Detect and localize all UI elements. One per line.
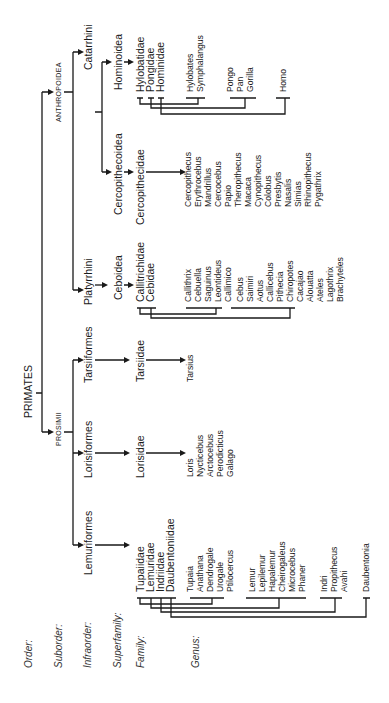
taxonomy-tree: Order: Suborder: Infraorder: Superfamily… bbox=[0, 0, 389, 703]
order-connector bbox=[36, 92, 42, 432]
genus-item: Hylobates bbox=[185, 54, 195, 92]
genus-item: Microcebus bbox=[287, 548, 297, 592]
genus-item: Dendrogale bbox=[205, 547, 215, 592]
arrow-icon bbox=[124, 542, 130, 548]
superfamily-hominoidea: Hominoidea bbox=[112, 34, 124, 90]
genus-item: Papio bbox=[223, 185, 233, 207]
genus-item: Pan bbox=[235, 76, 245, 92]
genus-item: Alouatta bbox=[305, 270, 315, 302]
family-tarsiidae: Tarsiidae bbox=[134, 340, 146, 382]
genus-item: Callicebus bbox=[265, 262, 275, 302]
genus-callitrichidae: Callithrix Cebuella Saguinus Leontideus … bbox=[183, 260, 233, 302]
level-superfamily: Superfamily: bbox=[112, 612, 123, 668]
suborder-anthropoidea: ANTHROPOIDEA bbox=[55, 62, 62, 122]
genus-daubentoniidae: Daubentonia bbox=[361, 543, 371, 592]
suborder-prosimii: PROSIMII bbox=[55, 412, 62, 446]
genus-lorisidae: Loris Nycticebus Arctocebus Perodicticus… bbox=[185, 430, 235, 477]
genus-item: Lemur bbox=[247, 568, 257, 592]
family-lorisidae: Lorisidae bbox=[134, 435, 146, 478]
level-family: Family: bbox=[135, 636, 146, 668]
hominoid-genus-connectors bbox=[140, 98, 285, 114]
infraorder-lemuriformes: Lemuriformes bbox=[82, 511, 94, 575]
genus-tarsiidae: Tarsius bbox=[185, 355, 195, 382]
genus-item: Phaner bbox=[297, 564, 307, 592]
genus-item: Chiropotes bbox=[285, 260, 295, 302]
order-primates: PRIMATES bbox=[22, 365, 34, 418]
genus-indriidae: Indri Propithecus Avahi bbox=[319, 547, 349, 592]
suborder-branches bbox=[42, 92, 50, 432]
level-genus: Genus: bbox=[190, 636, 201, 668]
genus-item: Simias bbox=[293, 181, 303, 207]
genus-item: Cynopithecus bbox=[253, 155, 263, 207]
genus-item: Callithrix bbox=[183, 268, 193, 302]
family-cercopithecidae: Cercopithecidae bbox=[134, 149, 146, 225]
infraorder-catarrhini: Catarrhini bbox=[82, 24, 94, 70]
genus-hylobatidae: Hylobates Symphalangus bbox=[185, 35, 205, 92]
genus-item: Symphalangus bbox=[195, 35, 205, 92]
genus-item: Indri bbox=[319, 575, 329, 592]
genus-pongidae: Pongo Pan Gorilla bbox=[225, 67, 255, 92]
genus-tupaiidae: Tupaia Anathana Dendrogale Urogale Ptilo… bbox=[185, 547, 235, 592]
genus-item: Tupaia bbox=[185, 566, 195, 592]
genus-item: Loris bbox=[185, 458, 195, 477]
genus-item: Pongo bbox=[225, 67, 235, 92]
genus-item: Galago bbox=[225, 449, 235, 477]
infraorder-tarsiiformes: Tarsiiformes bbox=[82, 326, 94, 383]
genus-item: Ptilocercus bbox=[225, 550, 235, 592]
prosimii-connector bbox=[64, 360, 80, 545]
arrow-icon bbox=[48, 89, 54, 95]
genus-item: Arctocebus bbox=[205, 434, 215, 477]
genus-item: Perodicticus bbox=[215, 430, 225, 477]
genus-item: Leontideus bbox=[213, 260, 223, 302]
genus-item: Rhinopithecus bbox=[303, 153, 313, 207]
arrow-icon bbox=[180, 450, 186, 456]
arrow-icon bbox=[48, 429, 54, 435]
genus-item: Nycticebus bbox=[195, 435, 205, 477]
genus-item: Lagothrix bbox=[325, 266, 335, 302]
genus-item: Cercocebus bbox=[213, 161, 223, 207]
genus-item: Propithecus bbox=[329, 547, 339, 592]
genus-item: Lepilemur bbox=[257, 554, 267, 592]
genus-item: Macaca bbox=[243, 177, 253, 207]
level-infraorder: Infraorder: bbox=[82, 622, 93, 668]
genus-item: Erythrocebus bbox=[193, 156, 203, 207]
superfamily-ceboidea: Ceboidea bbox=[112, 255, 124, 300]
family-daubentoniidae: Daubentoniidae bbox=[164, 518, 176, 592]
genus-item: Avahi bbox=[339, 571, 349, 592]
genus-item: Daubentonia bbox=[361, 543, 371, 592]
family-cebidae: Cebidae bbox=[144, 263, 156, 302]
level-order: Order: bbox=[23, 639, 34, 668]
genus-item: Theropithecus bbox=[233, 153, 243, 207]
genus-lemuridae: Lemur Lepilemur Hapalemur Cheirogaleus M… bbox=[247, 541, 307, 592]
genus-item: Colobus bbox=[263, 175, 273, 207]
genus-cebidae: Cebus Saimiri Aotus Callicebus Pithecia … bbox=[235, 257, 345, 302]
family-hominidae: Hominidae bbox=[154, 42, 166, 92]
genus-item: Nasalis bbox=[283, 179, 293, 207]
level-suborder: Suborder: bbox=[53, 624, 64, 668]
infraorder-lorisiformes: Lorisiformes bbox=[82, 421, 94, 478]
genus-item: Gorilla bbox=[245, 67, 255, 92]
genus-item: Cebus bbox=[235, 277, 245, 302]
ceboid-genus-connectors bbox=[137, 308, 295, 318]
infraorder-platyrrhini: Platyrrhini bbox=[82, 258, 94, 305]
genus-item: Hapalemur bbox=[267, 550, 277, 592]
genus-item: Tarsius bbox=[185, 355, 195, 382]
genus-item: Callimico bbox=[223, 267, 233, 302]
genus-cercopithecidae: Cercopithecus Erythrocebus Mandrillus Ce… bbox=[183, 152, 323, 207]
genus-item: Cercopithecus bbox=[183, 152, 193, 207]
arrow-icon bbox=[102, 282, 108, 288]
genus-item: Cheirogaleus bbox=[277, 541, 287, 592]
anthropoidea-connector bbox=[64, 52, 80, 290]
genus-item: Pithecia bbox=[275, 271, 285, 302]
genus-item: Saimiri bbox=[245, 276, 255, 302]
primate-taxonomy-diagram: Order: Suborder: Infraorder: Superfamily… bbox=[0, 0, 389, 703]
arrow-icon bbox=[124, 450, 130, 456]
genus-item: Cacajao bbox=[295, 270, 305, 302]
genus-item: Cebuella bbox=[193, 268, 203, 302]
genus-hominidae: Homo bbox=[278, 69, 288, 92]
genus-item: Saguinus bbox=[203, 266, 213, 302]
genus-item: Anathana bbox=[195, 555, 205, 592]
level-labels: Order: Suborder: Infraorder: Superfamily… bbox=[23, 612, 201, 668]
superfamily-cercopithecoidea: Cercopithecoidea bbox=[112, 133, 124, 215]
lemuriform-genus-connectors bbox=[137, 598, 370, 617]
